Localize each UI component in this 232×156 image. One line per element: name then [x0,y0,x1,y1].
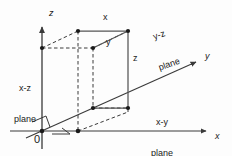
hidden-edge-top-left-diagonal [42,31,78,48]
vertex-top-front-left [76,29,80,33]
xy-plane-label: x-y plane [140,96,184,156]
y-axis-label: y [205,52,210,61]
dimension-y-label: y [106,38,111,47]
vertex-base-on-x-axis [76,129,81,134]
dimension-z-label: z [133,54,138,63]
hidden-edge-base-diagonal [78,112,128,131]
z-axis-label: z [49,9,54,18]
box-hidden-edges [42,31,128,131]
xz-plane-label: x-z plane [4,62,46,145]
coordinate-system-figure: z y x 0 x y z x-z plane y-z plane x-y pl… [0,0,232,156]
vertex-bottom-front-right [126,106,130,110]
xz-plane-label-line1: x-z [4,83,46,93]
yz-plane-label-line1: y-z [136,23,181,47]
vertex-bottom-back-right [91,106,95,110]
xy-plane-label-line2: plane [140,148,184,156]
vertex-top-back-right [91,46,95,50]
vertex-top-front-right [126,29,130,33]
box-visible-edges [78,31,128,108]
xy-plane-label-line1: x-y [140,117,184,127]
vertex-dots [40,29,130,133]
vertex-z-on-axis [40,46,44,50]
xz-plane-label-line2: plane [4,114,46,124]
x-axis-label: x [215,132,220,141]
dimension-x-label: x [103,13,108,22]
yz-plane-label-line2: plane [147,52,192,76]
